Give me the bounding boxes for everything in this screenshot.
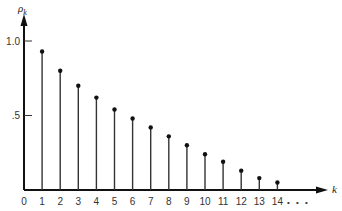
stem-k14: [275, 180, 279, 190]
stem-k9: [185, 143, 189, 190]
stem-k1: [40, 49, 44, 190]
y-tick-label: .5: [12, 110, 21, 121]
x-tick-label: 9: [184, 196, 190, 207]
stems: [40, 49, 280, 190]
stem-k7: [149, 125, 153, 190]
stem-k4: [94, 95, 98, 190]
stem-k11: [221, 159, 225, 190]
y-axis-label: ρk: [17, 2, 27, 17]
x-axis-arrow-icon: [316, 187, 328, 194]
x-tick-label: 8: [166, 196, 172, 207]
stem-k6: [130, 116, 134, 190]
stem-k12: [239, 168, 243, 190]
stem-k5: [112, 107, 116, 190]
x-tick-label: 10: [199, 196, 211, 207]
stem-k13: [257, 176, 261, 190]
x-tick-label: 1: [39, 196, 45, 207]
x-tick-label: 2: [57, 196, 63, 207]
x-tick-label: 13: [254, 196, 266, 207]
stem-k2: [58, 69, 62, 190]
data-point: [239, 168, 243, 172]
x-continuation: • • •: [287, 198, 310, 207]
data-point: [203, 152, 207, 156]
x-tick-label: 0: [21, 196, 27, 207]
x-tick-label: 6: [130, 196, 136, 207]
y-tick-label: 1.0: [6, 36, 20, 47]
data-point: [221, 159, 225, 163]
stem-k3: [76, 84, 80, 191]
data-point: [149, 125, 153, 129]
data-point: [257, 176, 261, 180]
data-point: [76, 84, 80, 88]
data-point: [94, 95, 98, 99]
data-point: [185, 143, 189, 147]
x-tick-labels: 01234567891011121314: [21, 196, 283, 207]
x-tick-label: 5: [112, 196, 118, 207]
data-point: [112, 107, 116, 111]
x-tick-label: 12: [236, 196, 248, 207]
data-point: [130, 116, 134, 120]
x-axis-label: k: [332, 183, 338, 195]
x-tick-label: 14: [272, 196, 284, 207]
stem-k8: [167, 134, 171, 190]
data-point: [58, 69, 62, 73]
data-point: [167, 134, 171, 138]
x-tick-label: 11: [218, 196, 229, 207]
y-axis-label-sub: k: [23, 8, 27, 17]
y-ticks: 1.0.5: [6, 36, 32, 122]
data-point: [40, 49, 44, 53]
stem-k10: [203, 152, 207, 190]
x-tick-label: 7: [148, 196, 154, 207]
data-point: [275, 180, 279, 184]
stem-chart: 1.0.5 01234567891011121314 • • • ρk k: [0, 0, 342, 211]
x-tick-label: 3: [76, 196, 82, 207]
x-tick-label: 4: [94, 196, 100, 207]
